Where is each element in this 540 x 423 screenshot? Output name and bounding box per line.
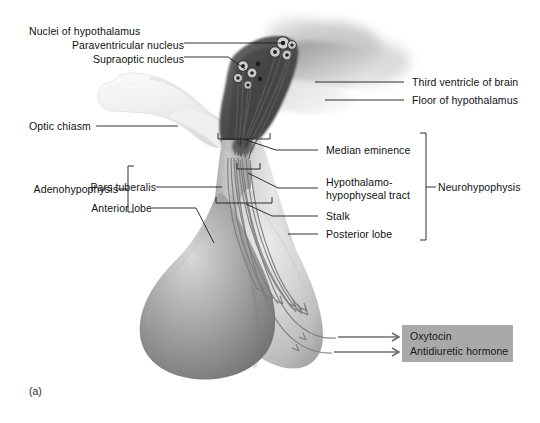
label-tract-line1: Hypothalamo- xyxy=(326,176,393,189)
bracket-stalk xyxy=(216,197,272,203)
leader-supraoptic xyxy=(184,57,245,69)
label-adenohypophysis: Adenohypophysis xyxy=(0,183,118,196)
label-anterior-lobe: Anterior lobe xyxy=(0,202,152,215)
label-paraventricular-nucleus: Paraventricular nucleus xyxy=(0,39,184,52)
bracket-tract xyxy=(237,163,260,169)
label-third-ventricle: Third ventricle of brain xyxy=(412,76,518,89)
label-median-eminence: Median eminence xyxy=(326,144,410,157)
bracket-neurohypophysis xyxy=(420,133,436,240)
label-tract-line2: hypophyseal tract xyxy=(326,189,410,202)
label-neurohypophysis: Neurohypophysis xyxy=(438,181,521,194)
leader-median-eminence xyxy=(246,140,318,150)
label-posterior-lobe: Posterior lobe xyxy=(326,228,392,241)
panel-label: (a) xyxy=(29,385,42,397)
figure-hypothalamus-pituitary: Oxytocin Antidiuretic hormone Nuclei of … xyxy=(0,0,540,423)
hormone-oxytocin-label: Oxytocin xyxy=(410,330,452,343)
bracket-median-eminence xyxy=(218,133,270,139)
leader-stalk xyxy=(246,204,318,216)
leader-tract xyxy=(248,173,318,188)
label-optic-chiasm: Optic chiasm xyxy=(29,120,91,133)
hormone-adh-label: Antidiuretic hormone xyxy=(410,345,508,358)
label-nuclei-of-hypothalamus: Nuclei of hypothalamus xyxy=(29,25,140,38)
label-supraoptic-nucleus: Supraoptic nucleus xyxy=(0,53,184,66)
leader-anterior-lobe xyxy=(152,208,214,243)
hormone-arrows xyxy=(334,333,399,356)
label-floor-of-hypothalamus: Floor of hypothalamus xyxy=(412,94,518,107)
label-stalk: Stalk xyxy=(326,210,350,223)
